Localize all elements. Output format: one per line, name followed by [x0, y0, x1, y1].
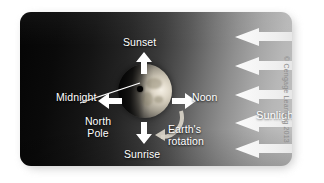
arrow-down-icon [134, 122, 154, 144]
label-sunrise: Sunrise [124, 149, 160, 161]
earth-rotation-diagram: Sunset Midnight Noon Sunrise North Pole … [0, 0, 324, 183]
sunlight-beam-arrow-1 [235, 28, 292, 50]
copyright-credit: © Cengage Learning 2013 [283, 56, 290, 156]
label-midnight: Midnight [56, 92, 97, 104]
illustration-panel: Sunset Midnight Noon Sunrise North Pole … [20, 12, 292, 166]
label-noon: Noon [192, 92, 218, 104]
arrow-up-icon [134, 52, 154, 74]
label-north-pole: North Pole [76, 116, 120, 139]
arrow-left-icon [98, 92, 122, 110]
label-earths-rotation: Earth's rotation [168, 124, 224, 147]
label-sunset: Sunset [123, 37, 156, 49]
